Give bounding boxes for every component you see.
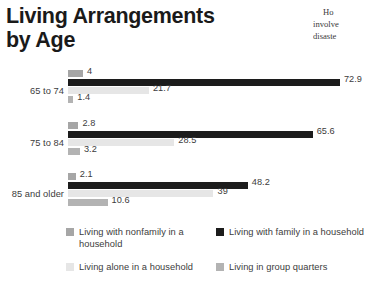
adjacent-text-line-3: disaste	[313, 30, 371, 42]
bar-track: 2.865.628.53.2	[68, 120, 371, 166]
bar-value-label: 28.5	[178, 135, 196, 145]
chart-page: Living Arrangements by Age Ho involve di…	[0, 0, 371, 284]
bar-group: 85 and older2.148.23910.6	[0, 171, 371, 217]
page-title: Living Arrangements by Age	[6, 4, 236, 53]
legend-item[interactable]: Living with nonfamily in a household	[66, 226, 208, 255]
bar-row: 21.7	[68, 87, 368, 94]
legend-label: Living with nonfamily in a household	[79, 226, 208, 251]
bar-value-label: 10.6	[112, 195, 130, 205]
bar[interactable]	[68, 190, 213, 197]
bar-value-label: 1.4	[77, 92, 90, 102]
bar-value-label: 21.7	[153, 83, 171, 93]
bar-value-label: 3.2	[84, 144, 97, 154]
legend-label: Living in group quarters	[229, 261, 327, 273]
bar-value-label: 48.2	[252, 177, 270, 187]
bar-group: 65 to 74472.921.71.4	[0, 68, 371, 114]
bar-row: 3.2	[68, 148, 368, 155]
bar-row: 65.6	[68, 131, 368, 138]
bar-row: 4	[68, 70, 368, 77]
bar-value-label: 2.8	[82, 118, 95, 128]
legend-label: Living alone in a household	[79, 261, 193, 273]
legend-swatch-icon	[66, 263, 74, 271]
category-label: 85 and older	[0, 171, 64, 217]
bar[interactable]	[68, 96, 73, 103]
bar[interactable]	[68, 122, 78, 129]
legend-item[interactable]: Living alone in a household	[66, 261, 208, 278]
category-label: 65 to 74	[0, 68, 64, 114]
bar-value-label: 39	[217, 186, 227, 196]
bar-group: 75 to 842.865.628.53.2	[0, 120, 371, 166]
bar-track: 2.148.23910.6	[68, 171, 371, 217]
bar-value-label: 4	[87, 66, 92, 76]
bar-row: 10.6	[68, 199, 368, 206]
bar-value-label: 2.1	[80, 169, 93, 179]
bar-track: 472.921.71.4	[68, 68, 371, 114]
adjacent-text-line-1: Ho	[313, 6, 371, 18]
legend-item[interactable]: Living in group quarters	[216, 261, 366, 278]
adjacent-text-line-2: involve	[313, 18, 371, 30]
bar-value-label: 65.6	[317, 126, 335, 136]
page-title-line-2: by Age	[6, 28, 75, 52]
bar-row: 1.4	[68, 96, 368, 103]
bar-row: 28.5	[68, 139, 368, 146]
category-label: 75 to 84	[0, 120, 64, 166]
legend-label: Living with family in a household	[229, 226, 364, 238]
bar-row: 72.9	[68, 79, 368, 86]
legend-swatch-icon	[216, 228, 224, 236]
bar[interactable]	[68, 173, 76, 180]
bar[interactable]	[68, 79, 340, 86]
bar-row: 2.1	[68, 173, 368, 180]
bar[interactable]	[68, 70, 83, 77]
bar[interactable]	[68, 199, 108, 206]
bar[interactable]	[68, 148, 80, 155]
page-title-line-1: Living Arrangements	[6, 4, 215, 28]
grouped-bar-chart: 65 to 74472.921.71.475 to 842.865.628.53…	[0, 68, 371, 220]
chart-legend: Living with nonfamily in a householdLivi…	[66, 226, 366, 278]
legend-swatch-icon	[66, 228, 74, 236]
bar-value-label: 72.9	[344, 74, 362, 84]
legend-swatch-icon	[216, 263, 224, 271]
adjacent-body-text-fragment: Ho involve disaste	[313, 6, 371, 43]
legend-item[interactable]: Living with family in a household	[216, 226, 366, 255]
